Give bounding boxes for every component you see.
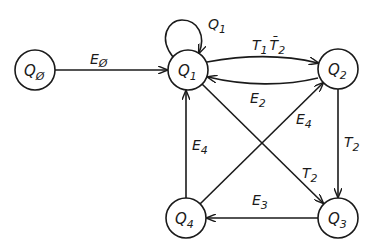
state-diagram: QØ Q1 Q2 Q3 Q4 EØ Q1 T1T̄2 E2 E4 T2 T2 E… [0, 0, 373, 252]
state-q3-label: Q3 [328, 210, 347, 231]
edge-label-e4-vertical: E4 [192, 137, 208, 157]
edge-label-e4-diagonal: E4 [296, 111, 312, 131]
edge-label-e0: EØ [90, 51, 108, 70]
edge-label-e3: E3 [252, 192, 268, 212]
edge-q2-q1 [208, 77, 318, 84]
state-q1-label: Q1 [178, 62, 197, 83]
edge-label-t2-vertical: T2 [344, 134, 360, 154]
edge-label-q1-loop: Q1 [208, 16, 226, 36]
state-q0-label: QØ [24, 62, 45, 83]
edge-label-t2-diagonal: T2 [302, 165, 318, 185]
edge-label-t1-t2bar: T1T̄2 [252, 36, 285, 57]
edge-q1-q2 [207, 57, 318, 63]
state-q4-label: Q4 [175, 210, 194, 231]
edge-label-e2: E2 [250, 90, 266, 110]
state-q2-label: Q2 [328, 61, 347, 82]
